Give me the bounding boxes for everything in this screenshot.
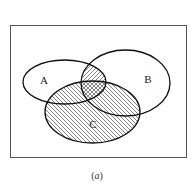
figure-caption: (a) [0,170,194,181]
set-c-label: C [89,118,96,130]
set-b-label: B [144,73,151,85]
set-a-label: A [40,74,48,86]
venn-diagram: A B C [0,0,196,188]
caption-close-paren: ) [100,170,103,181]
